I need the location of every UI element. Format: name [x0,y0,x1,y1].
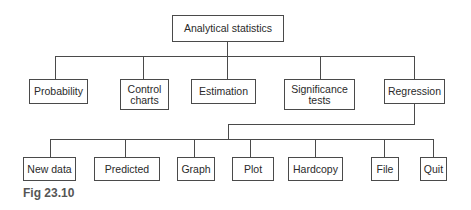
node-label: Significance tests [291,84,348,106]
connector-plot [250,139,251,157]
regression-return-bar [228,124,415,125]
node-estimation: Estimation [191,79,256,104]
figure-caption: Fig 23.10 [23,186,74,200]
node-regression: Regression [384,79,445,104]
node-label: Estimation [199,86,248,97]
connector-graph [194,139,195,157]
regression-mid-connector [228,124,229,139]
node-label: Analytical statistics [184,23,272,34]
connector-regression [414,56,415,79]
node-label: Graph [181,164,210,175]
connector-hardcopy [315,139,316,157]
connector-probability [55,56,56,79]
node-significance-tests: Significance tests [284,79,355,110]
level2-bar [50,139,434,140]
regression-down-connector [414,103,415,124]
connector-predicted [125,139,126,157]
node-label: Predicted [105,164,149,175]
connector-file [384,139,385,157]
node-label: Control charts [128,84,162,106]
connector-control-charts [143,56,144,79]
node-label: Hardcopy [293,164,338,175]
node-control-charts: Control charts [120,79,169,110]
node-predicted: Predicted [94,157,160,181]
connector-quit [433,139,434,157]
node-label: File [377,164,394,175]
node-file: File [371,157,399,181]
node-label: Plot [244,164,262,175]
root-connector [227,41,228,56]
node-label: Regression [388,86,441,97]
level1-bar [55,56,415,57]
node-new-data: New data [23,157,76,181]
connector-estimation [227,56,228,79]
node-plot: Plot [232,157,274,181]
node-graph: Graph [177,157,215,181]
node-label: Quit [424,164,443,175]
node-label: Probability [34,86,83,97]
connector-significance [320,56,321,79]
node-hardcopy: Hardcopy [288,157,343,181]
node-probability: Probability [29,79,88,104]
node-label: New data [27,164,71,175]
connector-new-data [50,139,51,157]
node-analytical-statistics: Analytical statistics [172,15,284,42]
node-quit: Quit [420,157,447,181]
